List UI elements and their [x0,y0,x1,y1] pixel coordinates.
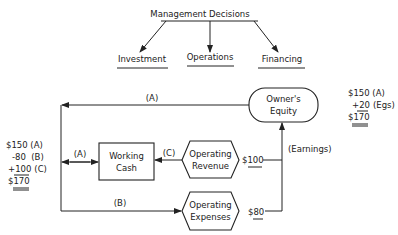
flow-c-label: (C) [163,148,176,158]
cash-ledger-line-1: $150 (A) [6,140,43,150]
arrow-to-financing [254,21,278,52]
operating-revenue-label-1: Operating [189,149,232,159]
flow-a-top-label: (A) [146,93,158,103]
operating-expenses-label-2: Expenses [190,212,231,222]
operating-revenue-node [182,141,239,178]
cash-ledger: $150 (A) -80 (B) +100(C) $170 [6,140,47,190]
revenue-amount: $100 [242,155,264,165]
equity-ledger-line-1: $150 (A) [348,88,385,98]
equity-ledger: $150 (A) +20(Egs) $170 [348,88,395,126]
branch-financing: Financing [262,54,302,64]
working-cash-label-2: Cash [116,163,137,173]
owners-equity-label-1: Owner's [266,94,301,104]
working-cash-node [99,143,154,180]
equity-ledger-total: $170 [348,112,370,122]
header-title: Management Decisions [150,9,250,19]
cash-ledger-line-2: -80 (B) [12,152,44,162]
operating-expenses-label-1: Operating [189,200,232,210]
flow-b-label: (B) [114,198,126,208]
operating-revenue-label-2: Revenue [192,161,229,171]
earnings-label: (Earnings) [288,144,332,154]
cash-ledger-total: $170 [8,176,30,186]
working-cash-label-1: Working [109,151,144,161]
cash-ledger-line-3: +100(C) [8,164,47,174]
flow-a-mid-label: (A) [74,149,86,159]
equity-ledger-line-2: +20(Egs) [352,100,395,110]
branch-operations: Operations [187,52,234,62]
arrow-to-investment [140,21,166,52]
owners-equity-label-2: Equity [270,106,297,116]
cash-flow-diagram: Management Decisions Investment Operatio… [0,0,398,235]
branch-investment: Investment [118,54,167,64]
expenses-amount: $80 [248,207,264,217]
operating-expenses-node [182,192,239,230]
